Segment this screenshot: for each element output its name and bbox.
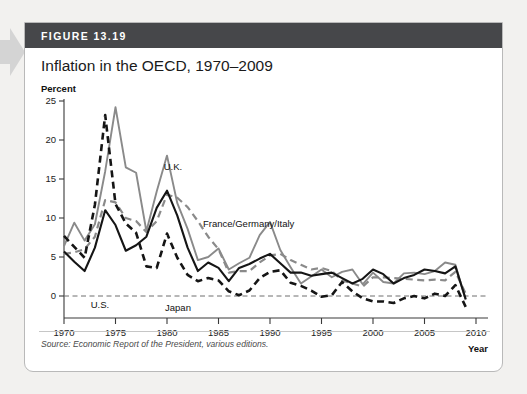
inflation-line-chart: 0510152025197019751980198519901995200020… bbox=[25, 23, 504, 373]
series-annotation-u-s: U.S. bbox=[91, 299, 109, 310]
series-annotation-france-germany-italy: France/Germany/Italy bbox=[203, 218, 295, 229]
x-axis-tick-label: 1970 bbox=[53, 327, 74, 338]
y-axis-tick-label: 15 bbox=[45, 173, 56, 184]
x-axis-tick-label: 1980 bbox=[156, 327, 177, 338]
chart-plot-area: 0510152025197019751980198519901995200020… bbox=[25, 23, 504, 373]
series-annotation-japan: Japan bbox=[165, 302, 191, 313]
x-axis-title: Year bbox=[468, 343, 488, 354]
y-axis-tick-label: 10 bbox=[45, 212, 56, 223]
y-axis-tick-label: 5 bbox=[51, 251, 56, 262]
series-line-u-s bbox=[64, 191, 466, 299]
y-axis-tick-label: 20 bbox=[45, 134, 56, 145]
source-divider bbox=[39, 331, 490, 332]
x-axis-tick-label: 2005 bbox=[414, 327, 435, 338]
x-axis-tick-label: 2010 bbox=[465, 327, 486, 338]
x-axis-tick-label: 1990 bbox=[259, 327, 280, 338]
x-axis-tick-label: 1985 bbox=[208, 327, 229, 338]
x-axis-tick-label: 1995 bbox=[311, 327, 332, 338]
y-axis-tick-label: 0 bbox=[51, 290, 56, 301]
series-line-u-k bbox=[64, 107, 466, 300]
x-axis-tick-label: 1975 bbox=[105, 327, 126, 338]
left-arrow-tab bbox=[0, 26, 26, 78]
source-note: Source: Economic Report of the President… bbox=[41, 339, 268, 349]
x-axis-tick-label: 2000 bbox=[362, 327, 383, 338]
y-axis-tick-label: 25 bbox=[45, 95, 56, 106]
figure-panel: FIGURE 13.19 Inflation in the OECD, 1970… bbox=[24, 22, 503, 372]
series-annotation-u-k: U.K. bbox=[164, 161, 182, 172]
